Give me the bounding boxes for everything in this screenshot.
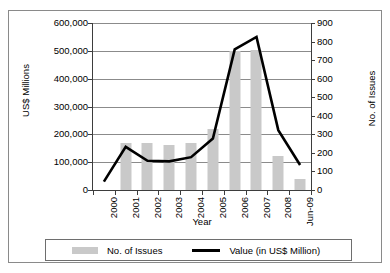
plot-area: 0100,000200,000300,000400,000500,000600,… bbox=[92, 23, 312, 190]
right-axis-title: No. of Issues bbox=[366, 59, 377, 139]
legend-item-no-of-issues: No. of Issues bbox=[72, 245, 162, 256]
x-tick-label: 2003 bbox=[173, 197, 184, 218]
left-axis-title: US$ Millions bbox=[20, 51, 31, 131]
right-tick-label: 300 bbox=[317, 129, 333, 139]
left-tick-label: 0 bbox=[83, 185, 88, 195]
chart-legend: No. of Issues Value (in US$ Million) bbox=[45, 239, 352, 261]
chart-screenshot: US$ Millions No. of Issues 0100,000200,0… bbox=[0, 0, 390, 273]
legend-label-value-us-million: Value (in US$ Million) bbox=[229, 245, 320, 256]
right-tick-label: 200 bbox=[317, 148, 333, 158]
x-tick-label: 2004 bbox=[195, 197, 206, 218]
left-tick-label: 600,000 bbox=[54, 18, 88, 28]
right-tick-label: 500 bbox=[317, 92, 333, 102]
x-tick-label: 2006 bbox=[239, 197, 250, 218]
x-axis-labels: 200020012002200320042005200620072008Jun-… bbox=[92, 195, 312, 235]
right-tick-label: 0 bbox=[317, 185, 322, 195]
right-tick-label: 900 bbox=[317, 18, 333, 28]
left-tick-label: 100,000 bbox=[54, 157, 88, 167]
right-tick-label: 600 bbox=[317, 74, 333, 84]
left-tick-label: 500,000 bbox=[54, 46, 88, 56]
left-tick-label: 300,000 bbox=[54, 102, 88, 112]
right-tick-label: 100 bbox=[317, 166, 333, 176]
legend-label-no-of-issues: No. of Issues bbox=[107, 245, 162, 256]
right-tick-label: 800 bbox=[317, 37, 333, 47]
bar-swatch-icon bbox=[72, 247, 98, 254]
x-tick-label: 2002 bbox=[152, 197, 163, 218]
x-tick-label: 2001 bbox=[130, 197, 141, 218]
x-tick-label: 2005 bbox=[217, 197, 228, 218]
line-swatch-icon bbox=[192, 249, 220, 252]
line-series-value-us-million bbox=[92, 23, 312, 190]
x-tick-label: 2000 bbox=[108, 197, 119, 218]
x-tick-label: 2007 bbox=[261, 197, 272, 218]
line-path bbox=[104, 37, 300, 182]
left-tick-label: 200,000 bbox=[54, 129, 88, 139]
chart-frame: US$ Millions No. of Issues 0100,000200,0… bbox=[8, 10, 382, 263]
x-axis-title: Year bbox=[92, 216, 312, 227]
x-tick-label: 2008 bbox=[282, 197, 293, 218]
right-tick-label: 400 bbox=[317, 111, 333, 121]
right-tick-label: 700 bbox=[317, 55, 333, 65]
left-tick-label: 400,000 bbox=[54, 74, 88, 84]
legend-item-value-us-million: Value (in US$ Million) bbox=[192, 245, 320, 256]
